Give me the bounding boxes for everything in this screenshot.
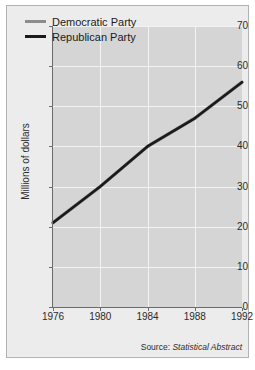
chart-figure: 010203040506070 19761980198419881992 Mil… [6, 5, 249, 358]
y-tick-mark [49, 146, 52, 147]
x-tick-label: 1976 [33, 311, 73, 322]
legend-swatch-democratic-party [25, 20, 46, 23]
x-tick-label: 1988 [175, 311, 215, 322]
chart-legend: Democratic Party Republican Party [21, 12, 140, 46]
y-tick-mark [49, 66, 52, 67]
y-axis-label: Millions of dollars [20, 92, 31, 232]
y-tick-label: 70 [208, 21, 248, 31]
x-tick-mark [195, 308, 196, 311]
legend-swatch-republican-party [25, 35, 46, 38]
source-text: Statistical Abstract [172, 342, 242, 352]
y-tick-mark [49, 187, 52, 188]
x-tick-label: 1992 [222, 311, 255, 322]
y-tick-mark [49, 227, 52, 228]
x-tick-label: 1984 [128, 311, 168, 322]
y-tick-label: 60 [208, 61, 248, 71]
x-tick-mark [53, 308, 54, 311]
x-tick-mark [100, 308, 101, 311]
y-tick-label: 50 [208, 101, 248, 111]
y-axis-spine [52, 26, 53, 308]
y-tick-mark [49, 267, 52, 268]
x-tick-mark [148, 308, 149, 311]
x-tick-label: 1980 [80, 311, 120, 322]
legend-item-republican-party: Republican Party [25, 29, 136, 44]
x-tick-mark [242, 308, 243, 311]
y-tick-label: 40 [208, 141, 248, 151]
y-tick-label: 10 [208, 262, 248, 272]
legend-label-republican-party: Republican Party [52, 31, 136, 43]
source-note: Source: Statistical Abstract [141, 342, 242, 352]
legend-item-democratic-party: Democratic Party [25, 14, 136, 29]
legend-label-democratic-party: Democratic Party [52, 16, 136, 28]
y-tick-label: 20 [208, 222, 248, 232]
y-tick-label: 30 [208, 182, 248, 192]
source-prefix: Source: [141, 342, 170, 352]
y-tick-mark [49, 106, 52, 107]
y-tick-mark [49, 307, 52, 308]
